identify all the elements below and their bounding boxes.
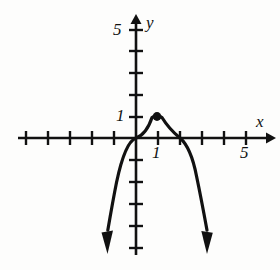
- y-axis-label: y: [146, 13, 154, 33]
- x-axis-label: x: [256, 112, 264, 132]
- x-axis-tick-label-1: 1: [152, 143, 161, 163]
- x-axis-tick-label-5: 5: [240, 143, 249, 163]
- graph-figure: y x 5 1 1 5: [0, 0, 280, 270]
- parabola-right-arrowhead: [201, 231, 213, 254]
- parabola-left-arrowhead: [102, 231, 114, 255]
- coordinate-plane: [0, 0, 280, 270]
- y-axis-tick-label-1: 1: [116, 106, 125, 126]
- y-axis-arrowhead: [131, 14, 142, 24]
- x-axis-arrowhead: [266, 133, 276, 144]
- vertex-point-marker: [153, 112, 162, 121]
- y-axis-tick-label-5: 5: [113, 20, 122, 40]
